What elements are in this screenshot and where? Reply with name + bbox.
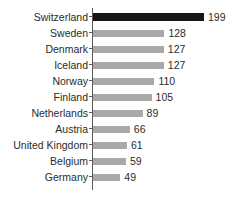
axis-tick [89, 128, 92, 129]
bar-and-value: 199 [93, 9, 226, 25]
bar-value-label: 89 [147, 105, 159, 121]
axis-tick [89, 80, 92, 81]
bar-row: Switzerland199 [0, 9, 232, 25]
bar [93, 46, 164, 53]
category-label: Germany [45, 169, 88, 185]
bar-value-label: 110 [158, 73, 175, 89]
bar-and-value: 89 [93, 105, 158, 121]
bar-and-value: 105 [93, 89, 173, 105]
bar-and-value: 127 [93, 57, 185, 73]
category-label: Switzerland [34, 9, 88, 25]
bar [93, 174, 120, 181]
category-label: Belgium [50, 153, 88, 169]
bar-value-label: 49 [124, 169, 136, 185]
category-label: Sweden [50, 25, 88, 41]
bar-rows: Switzerland199Sweden128Denmark127Iceland… [0, 9, 232, 185]
bar-row: Iceland127 [0, 57, 232, 73]
category-label: Austria [55, 121, 88, 137]
bar-value-label: 128 [168, 25, 186, 41]
bar-row: Sweden128 [0, 25, 232, 41]
bar-row: Germany49 [0, 169, 232, 185]
bar-chart: Switzerland199Sweden128Denmark127Iceland… [0, 0, 232, 201]
bar-value-label: 199 [208, 9, 226, 25]
bar [93, 62, 164, 69]
axis-tick [89, 32, 92, 33]
axis-tick [89, 176, 92, 177]
bar [93, 142, 127, 149]
bar-and-value: 59 [93, 153, 142, 169]
bar-row: Denmark127 [0, 41, 232, 57]
bar-and-value: 110 [93, 73, 175, 89]
axis-tick [89, 112, 92, 113]
bar [93, 30, 164, 37]
bar-and-value: 127 [93, 41, 185, 57]
axis-tick [89, 16, 92, 17]
bar-row: Belgium59 [0, 153, 232, 169]
bar-and-value: 61 [93, 137, 143, 153]
axis-tick [89, 160, 92, 161]
bar-and-value: 49 [93, 169, 136, 185]
bar-value-label: 127 [168, 57, 186, 73]
bar-row: Austria66 [0, 121, 232, 137]
bar-value-label: 66 [134, 121, 146, 137]
bar-value-label: 127 [168, 41, 186, 57]
category-label: Iceland [54, 57, 88, 73]
bar-row: Norway110 [0, 73, 232, 89]
category-label: Denmark [45, 41, 88, 57]
bar [93, 158, 126, 165]
bar-highlighted [93, 13, 204, 21]
bar [93, 94, 152, 101]
bar-value-label: 61 [131, 137, 143, 153]
category-label: Norway [52, 73, 88, 89]
bar [93, 110, 143, 117]
category-label: United Kingdom [13, 137, 88, 153]
bar-value-label: 105 [156, 89, 174, 105]
axis-tick [89, 48, 92, 49]
bar-row: United Kingdom61 [0, 137, 232, 153]
category-label: Netherlands [31, 105, 88, 121]
bar-row: Netherlands89 [0, 105, 232, 121]
bar-row: Finland105 [0, 89, 232, 105]
bar [93, 78, 154, 85]
axis-tick [89, 96, 92, 97]
bar-and-value: 66 [93, 121, 145, 137]
category-label: Finland [54, 89, 88, 105]
bar [93, 126, 130, 133]
bar-and-value: 128 [93, 25, 186, 41]
bar-value-label: 59 [130, 153, 142, 169]
axis-tick [89, 64, 92, 65]
axis-tick [89, 144, 92, 145]
